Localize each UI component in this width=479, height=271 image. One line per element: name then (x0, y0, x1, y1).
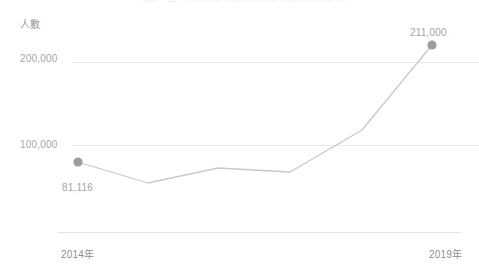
data-point-marker-last[interactable] (427, 40, 436, 49)
y-tick-label-100000: 100,000 (20, 139, 58, 151)
series-line (78, 45, 432, 183)
data-point-marker-first[interactable] (73, 157, 82, 166)
data-point-label-first: 81,116 (62, 182, 93, 194)
plot-area (0, 0, 479, 271)
x-tick-label-2014: 2014年 (61, 249, 94, 261)
x-tick-label-2019: 2019年 (429, 249, 462, 261)
y-tick-label-200000: 200,000 (20, 53, 58, 65)
data-point-label-last: 211,000 (410, 27, 447, 39)
chart-container: （圖）歷年某某某某某某某某某某某某某某 人數 200,000 100,000 2… (0, 0, 479, 271)
